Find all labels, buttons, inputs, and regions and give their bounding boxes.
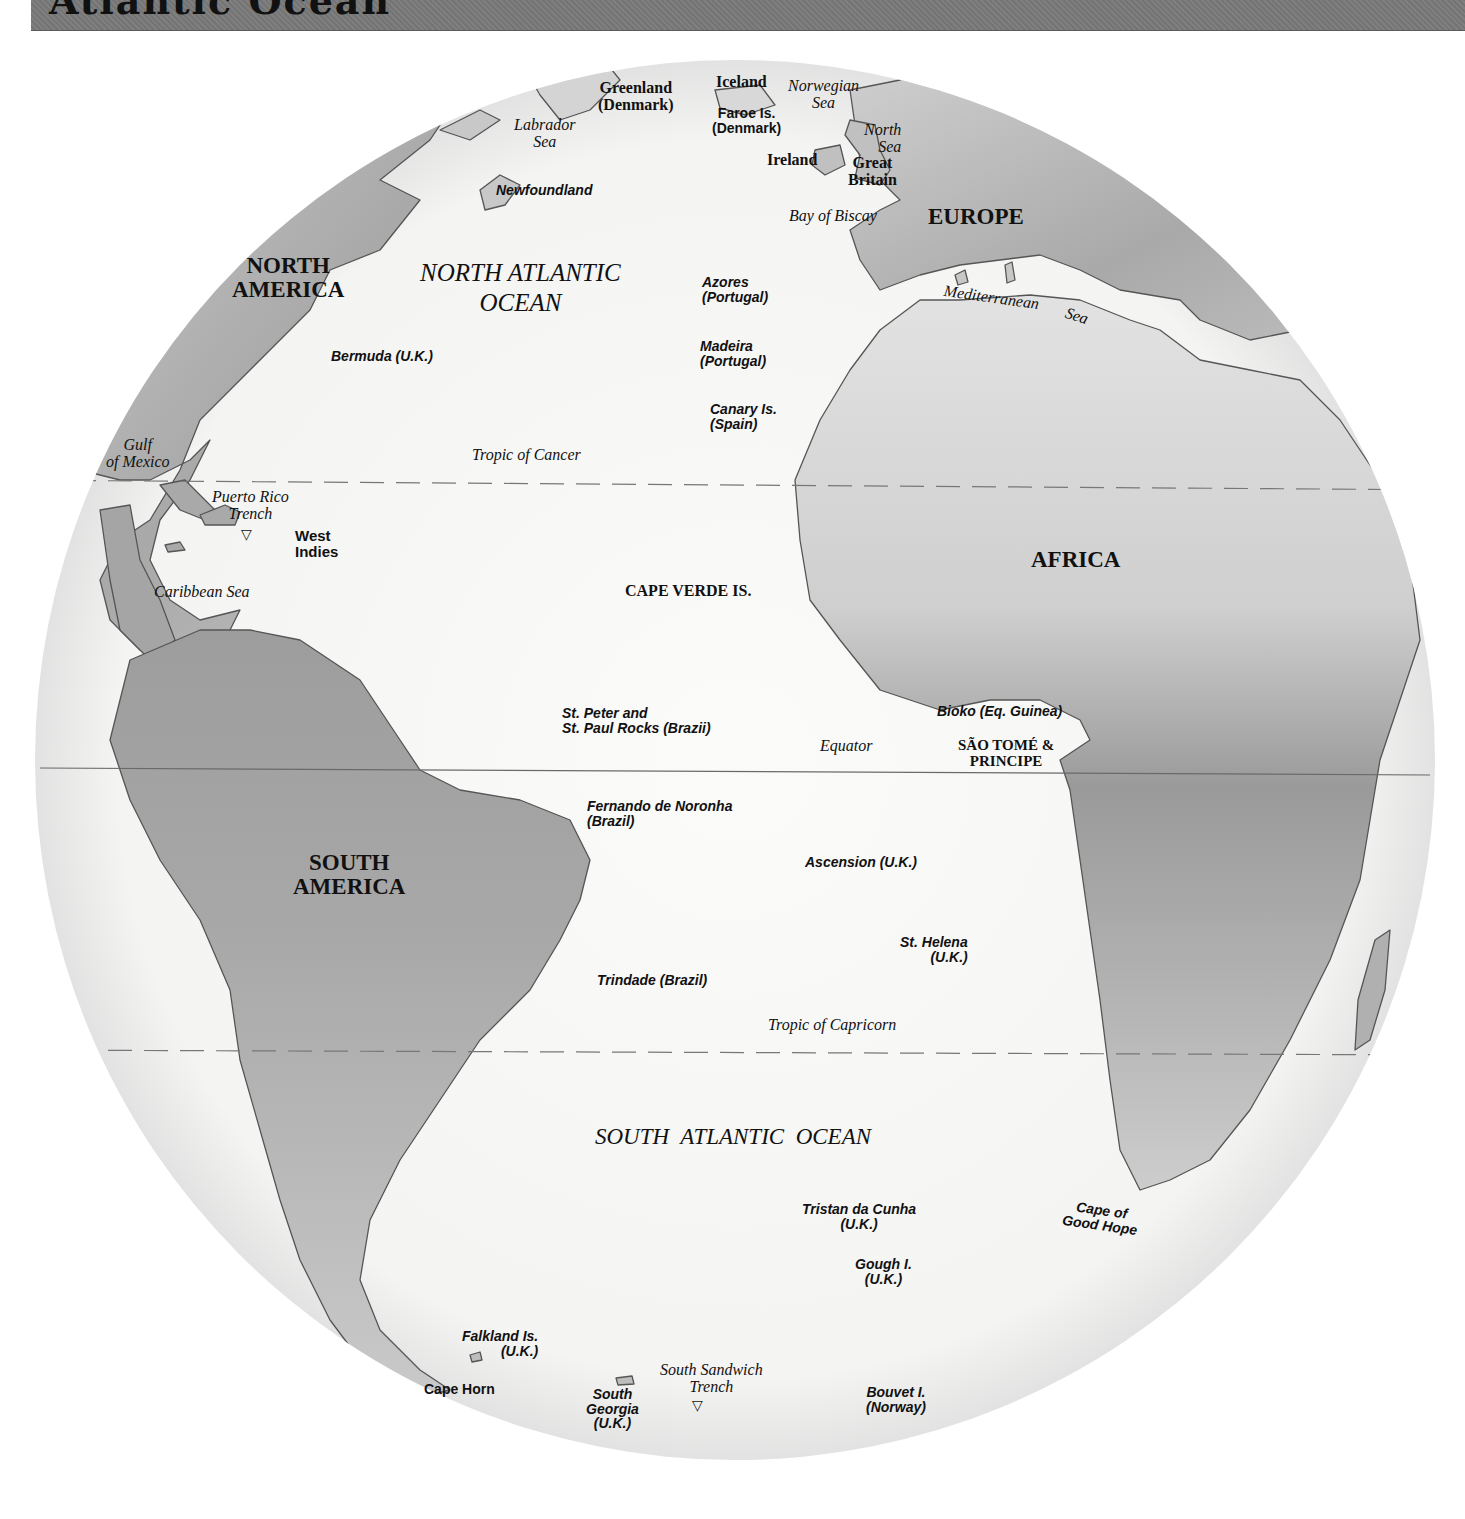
label-madeira: Madeira (Portugal) [700,339,766,368]
label-newfoundland: Newfoundland [496,183,592,198]
label-bermuda: Bermuda (U.K.) [331,349,433,364]
label-tropic-of-capricorn: Tropic of Capricorn [768,1017,896,1034]
label-bay-of-biscay: Bay of Biscay [789,208,877,225]
label-west-indies: West Indies [295,528,338,560]
label-bouvet-island: Bouvet I. (Norway) [866,1385,926,1414]
label-south-georgia: South Georgia (U.K.) [586,1387,639,1431]
label-south-america: SOUTH AMERICA [293,851,405,899]
label-tristan-da-cunha: Tristan da Cunha (U.K.) [802,1202,916,1231]
label-ascension: Ascension (U.K.) [805,855,917,870]
label-south-sandwich-trench: South Sandwich Trench [660,1362,763,1396]
trench-marker-icon: ▽ [241,526,252,542]
label-falkland-islands: Falkland Is. (U.K.) [462,1329,538,1358]
label-cape-horn: Cape Horn [424,1382,495,1397]
label-ireland: Ireland [767,152,817,169]
label-north-sea: North Sea [864,122,901,156]
label-norwegian-sea: Norwegian Sea [788,78,859,112]
label-bioko: Bioko (Eq. Guinea) [937,704,1062,719]
label-iceland: Iceland [716,74,767,91]
label-africa: AFRICA [1031,548,1120,572]
label-st-helena: St. Helena (U.K.) [900,935,968,964]
label-labrador-sea: Labrador Sea [514,117,575,151]
label-trindade: Trindade (Brazil) [597,973,707,988]
label-europe: EUROPE [928,205,1024,229]
label-north-atlantic-ocean: NORTH ATLANTIC OCEAN [420,258,621,318]
label-faroe-islands: Faroe Is. (Denmark) [712,106,781,135]
label-puerto-rico-trench: Puerto Rico Trench [212,489,289,523]
label-gough-island: Gough I. (U.K.) [855,1257,912,1286]
label-canary-islands: Canary Is. (Spain) [710,402,777,431]
label-south-atlantic-ocean: SOUTH ATLANTIC OCEAN [595,1125,871,1149]
label-caribbean-sea: Caribbean Sea [154,584,250,601]
label-equator: Equator [820,738,872,755]
label-tropic-of-cancer: Tropic of Cancer [472,447,581,464]
label-north-america: NORTH AMERICA [232,254,344,302]
label-azores: Azores (Portugal) [702,275,768,304]
label-gulf-of-mexico: Gulf of Mexico [106,437,170,471]
label-greenland: Greenland (Denmark) [598,80,674,114]
trench-marker-icon: ▽ [692,1397,703,1413]
globe-map [0,0,1465,1519]
label-sao-tome-principe: SÃO TOMÉ & PRINCIPE [958,738,1054,770]
label-great-britain: Great Britain [848,155,897,189]
label-st-peter-paul-rocks: St. Peter and St. Paul Rocks (Brazii) [562,706,711,735]
label-fernando-de-noronha: Fernando de Noronha (Brazil) [587,799,732,828]
label-cape-verde: CAPE VERDE IS. [625,583,751,600]
